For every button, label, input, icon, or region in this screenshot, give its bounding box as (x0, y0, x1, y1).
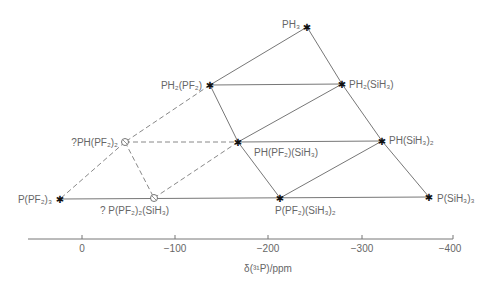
tick-label-0: 0 (79, 243, 85, 254)
star-icon-PH3: ✱ (303, 22, 311, 33)
edge-PH2SiH3-PHPF2SiH3 (238, 84, 342, 142)
edge-PH3-PH2PF2 (210, 27, 307, 85)
edge-bottom-row (60, 197, 429, 199)
solid-edges (60, 27, 429, 199)
star-icon-PH2SiH3: ✱ (338, 79, 346, 90)
edge-PHPF2_2-PPF2_2SiH3 (125, 142, 154, 198)
edge-PH2PF2-PHPF2SiH3 (210, 85, 238, 142)
axis-title: δ(³¹P)/ppm (244, 263, 292, 274)
label-PHPF2_2: ?PH(PF₂)₂ (71, 137, 118, 148)
star-icon-PH2PF2: ✱ (206, 80, 214, 91)
chemical-shift-diagram: ✱ ✱ ✱ ✱ ✱ ✱ ✱ ✱ PH₃ PH₂(PF₂) PH₂(SiH₃) ?… (0, 0, 495, 283)
edge-PH2SiH3-PHSiH3_2 (342, 84, 382, 141)
label-PH2PF2: PH₂(PF₂) (161, 80, 202, 91)
star-icon-PPF2_3: ✱ (56, 194, 64, 205)
tick-label-100: −100 (164, 243, 187, 254)
label-PH3: PH₃ (282, 19, 300, 30)
tick-label-300: −300 (351, 243, 374, 254)
edge-PHPF2_2-PPF2_3 (60, 142, 125, 199)
edge-PHSiH3_2-PSiH3_3 (382, 141, 429, 197)
star-icon-PHPF2SiH3: ✱ (234, 137, 242, 148)
label-PPF2_3: P(PF₂)₃ (18, 194, 52, 205)
edge-PHPF2SiH3-PHSiH3_2 (238, 141, 382, 142)
label-PHSiH3_2: PH(SiH₃)₂ (389, 135, 434, 146)
label-PSiH3_3: P(SiH₃)₃ (437, 193, 475, 204)
node-labels: PH₃ PH₂(PF₂) PH₂(SiH₃) ?PH(PF₂)₂ PH(PF₂)… (18, 19, 475, 216)
label-PH2SiH3: PH₂(SiH₃) (349, 79, 394, 90)
edge-PH3-PH2SiH3 (307, 27, 342, 84)
x-axis: 0 −100 −200 −300 −400 δ(³¹P)/ppm (28, 235, 462, 274)
tick-label-400: −400 (439, 243, 462, 254)
star-icon-PHSiH3_2: ✱ (378, 136, 386, 147)
edge-PH2PF2-PHPF2_2 (125, 85, 210, 142)
edge-PPF2_2SiH3-PHPF2SiH3 (154, 142, 238, 198)
edge-PH2PF2-PH2SiH3 (210, 84, 342, 85)
label-PPF2_2SiH3: ? P(PF₂)₂(SiH₃) (100, 205, 169, 216)
star-icon-PSiH3_3: ✱ (425, 192, 433, 203)
tick-label-200: −200 (257, 243, 280, 254)
star-icon-PPF2SiH3_2: ✱ (276, 193, 284, 204)
label-PHPF2SiH3: PH(PF₂)(SiH₃) (254, 147, 318, 158)
tentative-markers (122, 139, 158, 202)
star-markers: ✱ ✱ ✱ ✱ ✱ ✱ ✱ ✱ (56, 22, 433, 205)
label-PPF2SiH3_2: P(PF₂)(SiH₃)₂ (275, 205, 336, 216)
